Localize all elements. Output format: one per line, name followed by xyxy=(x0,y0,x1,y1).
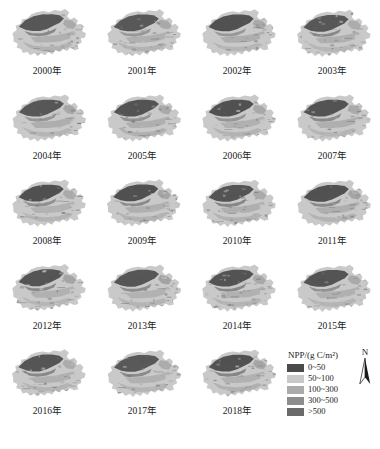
map-panel-2006: 2006年 xyxy=(190,85,285,170)
panel-year-label: 2015年 xyxy=(318,321,348,332)
map-panel-2008: 2008年 xyxy=(0,170,95,255)
npp-map-2007 xyxy=(291,87,375,149)
npp-map-2011 xyxy=(291,172,375,234)
npp-map-2010 xyxy=(196,172,280,234)
map-panel-2014: 2014年 xyxy=(190,255,285,340)
map-panel-2017: 2017年 xyxy=(95,340,190,425)
map-panel-2013: 2013年 xyxy=(95,255,190,340)
panel-year-label: 2014年 xyxy=(223,321,253,332)
map-panel-2010: 2010年 xyxy=(190,170,285,255)
npp-map-2015 xyxy=(291,257,375,319)
map-panel-2009: 2009年 xyxy=(95,170,190,255)
npp-map-2005 xyxy=(101,87,185,149)
legend-swatch-icon xyxy=(287,386,304,394)
map-panel-2012: 2012年 xyxy=(0,255,95,340)
map-panel-2000: 2000年 xyxy=(0,0,95,85)
panel-year-label: 2003年 xyxy=(318,66,348,77)
panel-year-label: 2017年 xyxy=(128,406,158,417)
legend-panel: NPP/(g C/m²)0~5050~100100~300300~500>500… xyxy=(285,340,380,425)
panel-year-label: 2007年 xyxy=(318,151,348,162)
legend-item: >500 xyxy=(287,407,380,417)
npp-map-2012 xyxy=(6,257,90,319)
legend-item: 100~300 xyxy=(287,385,380,395)
npp-map-2000 xyxy=(6,2,90,64)
npp-map-2008 xyxy=(6,172,90,234)
panel-year-label: 2001年 xyxy=(128,66,158,77)
npp-map-2016 xyxy=(6,342,90,404)
map-panel-2004: 2004年 xyxy=(0,85,95,170)
panel-year-label: 2012年 xyxy=(33,321,63,332)
panel-year-label: 2002年 xyxy=(223,66,253,77)
panel-year-label: 2000年 xyxy=(33,66,63,77)
panel-year-label: 2010年 xyxy=(223,236,253,247)
npp-map-2014 xyxy=(196,257,280,319)
map-panel-2002: 2002年 xyxy=(190,0,285,85)
npp-map-2001 xyxy=(101,2,185,64)
legend-item-label: 300~500 xyxy=(308,396,338,405)
npp-map-2002 xyxy=(196,2,280,64)
panel-year-label: 2011年 xyxy=(318,236,347,247)
panel-year-label: 2009年 xyxy=(128,236,158,247)
legend-swatch-icon xyxy=(287,408,304,416)
panel-year-label: 2005年 xyxy=(128,151,158,162)
legend-item-label: 100~300 xyxy=(308,385,338,394)
npp-map-2009 xyxy=(101,172,185,234)
npp-map-2018 xyxy=(196,342,280,404)
panel-year-label: 2018年 xyxy=(223,406,253,417)
panel-year-label: 2006年 xyxy=(223,151,253,162)
legend-item-label: >500 xyxy=(308,407,326,416)
legend-item: 300~500 xyxy=(287,396,380,406)
legend-swatch-icon xyxy=(287,364,304,372)
north-arrow-icon: N xyxy=(352,348,378,384)
map-legend: NPP/(g C/m²)0~5050~100100~300300~500>500… xyxy=(287,350,380,418)
npp-map-2004 xyxy=(6,87,90,149)
north-needle-icon xyxy=(358,358,372,384)
map-panel-2005: 2005年 xyxy=(95,85,190,170)
npp-map-series-figure: 2000年2001年2002年2003年2004年2005年2006年2007年… xyxy=(0,0,380,449)
panel-year-label: 2016年 xyxy=(33,406,63,417)
panel-grid: 2000年2001年2002年2003年2004年2005年2006年2007年… xyxy=(0,0,380,449)
npp-map-2003 xyxy=(291,2,375,64)
map-panel-2016: 2016年 xyxy=(0,340,95,425)
panel-year-label: 2004年 xyxy=(33,151,63,162)
npp-map-2013 xyxy=(101,257,185,319)
map-panel-2018: 2018年 xyxy=(190,340,285,425)
legend-swatch-icon xyxy=(287,375,304,383)
map-panel-2015: 2015年 xyxy=(285,255,380,340)
legend-item-label: 50~100 xyxy=(308,374,334,383)
panel-year-label: 2008年 xyxy=(33,236,63,247)
map-panel-2007: 2007年 xyxy=(285,85,380,170)
npp-map-2006 xyxy=(196,87,280,149)
north-arrow-label: N xyxy=(352,348,378,357)
legend-swatch-icon xyxy=(287,397,304,405)
map-panel-2011: 2011年 xyxy=(285,170,380,255)
map-panel-2003: 2003年 xyxy=(285,0,380,85)
npp-map-2017 xyxy=(101,342,185,404)
legend-item-label: 0~50 xyxy=(308,363,325,372)
panel-year-label: 2013年 xyxy=(128,321,158,332)
map-panel-2001: 2001年 xyxy=(95,0,190,85)
